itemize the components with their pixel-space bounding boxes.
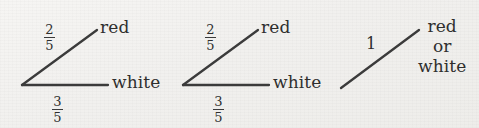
tree-3-branch-weight: 1 [366,36,376,52]
tree-3-outcome-line-1: red or [427,16,456,56]
tree-3-only-branch-line [341,30,419,88]
tree-3-branch-lines [0,0,479,128]
tree-3-outcome-line-2: white [418,56,466,76]
tree-3-outcome-red-or-white: red or white [418,16,466,76]
probability-tree-figure: 2 5 red 3 5 white 2 5 red 3 5 white [0,0,479,128]
